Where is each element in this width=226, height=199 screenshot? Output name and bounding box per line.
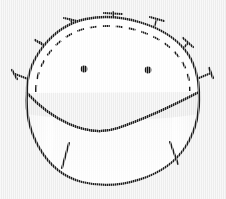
- pin-head: [104, 13, 122, 14]
- pin-head: [64, 18, 77, 21]
- dome-group: [27, 17, 199, 93]
- eye-left: [81, 66, 88, 73]
- dome-fill: [27, 17, 199, 93]
- eye-right: [145, 67, 152, 74]
- sketch-drawing: [0, 0, 226, 199]
- sketch-canvas: Hand-drawn ink sketch of a rounded dome …: [0, 0, 226, 199]
